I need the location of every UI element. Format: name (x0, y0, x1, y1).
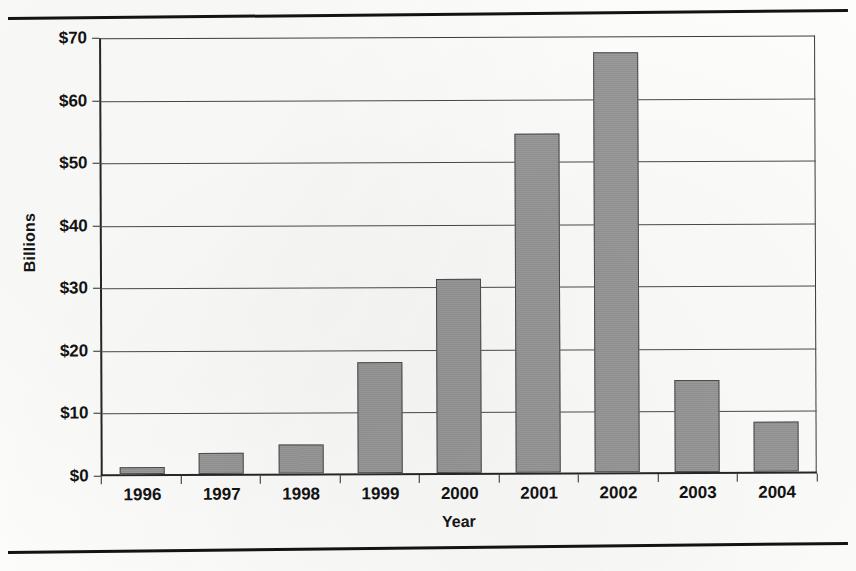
y-tick-label: $40 (59, 216, 99, 236)
x-tick-mark (260, 476, 261, 484)
x-tick-label-1996: 1996 (103, 485, 182, 505)
bar-2002 (594, 52, 641, 472)
y-tick-label: $30 (60, 279, 100, 299)
bar-2000 (436, 279, 482, 473)
bottom-horizontal-rule (8, 542, 848, 554)
y-tick-label: $20 (60, 341, 100, 361)
x-tick-mark (339, 475, 340, 483)
plot-area: $0$10$20$30$40$50$60$70 (99, 36, 817, 477)
x-tick-label-1999: 1999 (341, 484, 420, 504)
x-tick-mark (737, 474, 738, 482)
y-tick-label: $10 (60, 404, 100, 424)
bar-slot (259, 37, 340, 473)
bar-1997 (199, 453, 244, 474)
bar-slot (656, 36, 737, 472)
bar-2003 (674, 380, 719, 472)
bar-slot (497, 36, 578, 472)
x-tick-label-1998: 1998 (261, 484, 340, 504)
bar-2001 (515, 134, 561, 473)
x-tick-mark (180, 476, 181, 484)
bar-1999 (357, 362, 402, 474)
y-tick-label: $50 (59, 153, 99, 173)
bar-series (101, 36, 816, 475)
scanned-page: Billions $0$10$20$30$40$50$60$70 1996199… (0, 0, 856, 571)
bar-slot (735, 36, 816, 472)
y-axis-title: Billions (21, 182, 39, 302)
x-tick-label-2004: 2004 (737, 483, 816, 503)
bar-1996 (120, 467, 165, 475)
bar-chart: Billions $0$10$20$30$40$50$60$70 1996199… (0, 24, 856, 539)
y-tick-label: $60 (59, 91, 99, 111)
x-tick-label-2001: 2001 (499, 483, 578, 503)
bar-slot (180, 38, 261, 474)
bar-slot (339, 37, 420, 473)
bar-2004 (753, 422, 798, 472)
y-tick-label: $70 (59, 28, 99, 48)
bar-slot (576, 36, 657, 472)
x-tick-mark (419, 475, 420, 483)
x-axis-labels: 199619971998199920002001200220032004 (103, 483, 817, 506)
x-tick-label-2000: 2000 (420, 484, 499, 504)
x-tick-mark (499, 475, 500, 483)
x-axis-title: Year (101, 512, 817, 533)
top-horizontal-rule (8, 9, 848, 20)
bar-1998 (278, 445, 323, 474)
x-tick-mark (101, 476, 102, 484)
bar-slot (101, 38, 182, 474)
x-tick-label-2002: 2002 (579, 483, 658, 503)
x-tick-label-2003: 2003 (658, 483, 737, 503)
y-tick-label: $0 (70, 466, 101, 486)
x-tick-mark (578, 474, 579, 482)
x-tick-label-1997: 1997 (182, 485, 261, 505)
bar-slot (418, 37, 499, 473)
x-tick-mark (658, 474, 659, 482)
x-tick-mark (817, 474, 818, 482)
